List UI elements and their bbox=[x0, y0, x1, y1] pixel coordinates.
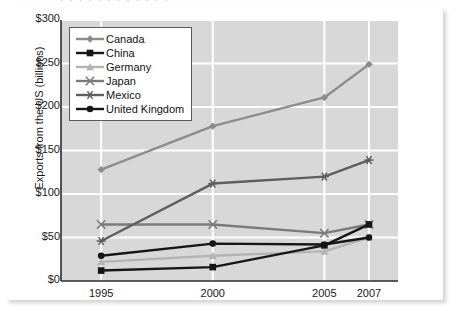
legend-key-asterisk-icon bbox=[75, 88, 105, 102]
legend-key-square-icon bbox=[75, 46, 105, 60]
legend-label: Canada bbox=[105, 32, 145, 46]
legend-label: United Kingdom bbox=[105, 102, 184, 116]
marker-asterisk bbox=[86, 91, 95, 99]
legend-label: China bbox=[105, 46, 135, 60]
legend-item-germany: Germany bbox=[75, 60, 184, 74]
legend-key-x-icon bbox=[75, 74, 105, 88]
legend-label: Germany bbox=[105, 60, 151, 74]
chart-legend: CanadaChinaGermanyJapanMexicoUnited King… bbox=[69, 27, 192, 121]
legend-key-diamond-icon bbox=[75, 32, 105, 46]
legend-key-triangle-icon bbox=[75, 60, 105, 74]
legend-item-united-kingdom: United Kingdom bbox=[75, 102, 184, 116]
chart-figure: · · · · · · · · · · · · $0$50$100$150$20… bbox=[0, 0, 457, 311]
x-tick-label: 2007 bbox=[357, 287, 381, 299]
legend-item-japan: Japan bbox=[75, 74, 184, 88]
x-tick-label: 2000 bbox=[201, 287, 225, 299]
x-tick-label: 1995 bbox=[89, 287, 113, 299]
marker-diamond bbox=[86, 35, 93, 42]
legend-item-canada: Canada bbox=[75, 32, 184, 46]
legend-item-mexico: Mexico bbox=[75, 88, 184, 102]
marker-circle bbox=[87, 106, 94, 113]
y-axis-label: Exports from the US (billions) bbox=[33, 0, 45, 243]
legend-label: Japan bbox=[105, 74, 136, 88]
marker-square bbox=[87, 50, 94, 57]
x-tick-label: 2005 bbox=[312, 287, 336, 299]
legend-label: Mexico bbox=[105, 88, 141, 102]
legend-item-china: China bbox=[75, 46, 184, 60]
legend-key-circle-icon bbox=[75, 102, 105, 116]
